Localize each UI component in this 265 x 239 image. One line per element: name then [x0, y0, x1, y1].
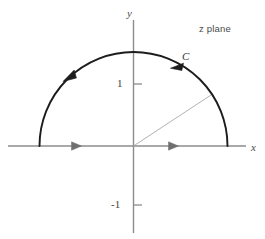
y-axis-label: y — [127, 8, 132, 19]
figure-canvas — [0, 0, 265, 239]
arc-arrow-right-icon — [171, 63, 184, 70]
tick-label-positive-one: 1 — [117, 78, 123, 89]
tick-label-negative-one: -1 — [111, 199, 120, 210]
x-axis-label: x — [251, 142, 256, 153]
radius-ray — [134, 95, 212, 146]
complex-plane-figure: y x C 1 -1 z plane — [0, 0, 265, 239]
segment-arrow-right-icon — [169, 142, 179, 150]
contour-label-c: C — [182, 51, 189, 62]
plane-label: z plane — [199, 24, 231, 34]
arc-arrow-left-icon — [63, 70, 76, 82]
segment-arrow-left-icon — [72, 142, 82, 150]
